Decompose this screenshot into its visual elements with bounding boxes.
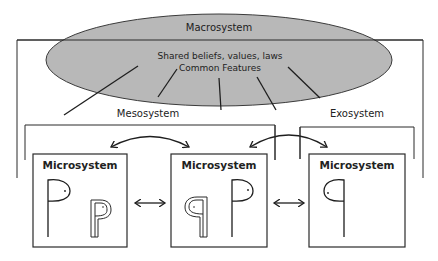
curved-arrow-micro2-micro3 — [250, 135, 327, 147]
curved-arrow-micro1-micro2 — [111, 137, 189, 148]
macrosystem-description-line2: Common Features — [179, 63, 261, 73]
microsystem-3: Microsystem — [309, 154, 405, 247]
macrosystem-label: Macrosystem — [186, 22, 252, 33]
exosystem-label: Exosystem — [330, 108, 384, 119]
microsystem-1: Microsystem — [33, 154, 127, 247]
figure-eye-dot — [64, 190, 66, 192]
microsystem-2: Microsystem — [171, 154, 267, 247]
figure-eye-dot — [193, 206, 195, 208]
mesosystem-label: Mesosystem — [117, 108, 179, 119]
microsystem-2-title: Microsystem — [181, 159, 256, 171]
figure-eye-dot — [102, 206, 104, 208]
ecological-systems-diagram: Macrosystem Shared beliefs, values, laws… — [0, 0, 438, 261]
microsystem-3-title: Microsystem — [319, 159, 394, 171]
microsystem-1-title: Microsystem — [42, 159, 117, 171]
figure-eye-dot — [247, 189, 249, 191]
figure-eye-dot — [327, 192, 329, 194]
macrosystem-description-line1: Shared beliefs, values, laws — [158, 51, 283, 61]
